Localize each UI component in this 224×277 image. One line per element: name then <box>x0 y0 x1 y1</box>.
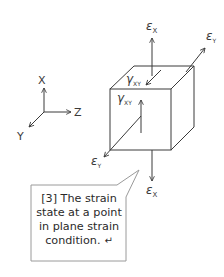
callout-line-3: in plane strain <box>32 220 126 234</box>
y-axis-label: Y <box>16 130 24 143</box>
coordinate-axes <box>29 88 71 127</box>
callout-line-4: condition.↵ <box>32 234 126 248</box>
callout-text: [3] The strain state at a point in plane… <box>32 192 126 248</box>
cube-right-face <box>171 66 194 150</box>
epsilon-x-bottom-label: εX <box>146 183 158 199</box>
callout-line-1: [3] The strain <box>32 192 126 206</box>
callout-line-4-text: condition. <box>45 234 100 247</box>
epsilon-x-top-label: εX <box>146 19 158 35</box>
y-axis-arrow <box>29 112 44 127</box>
gamma-xy-front-label: γXY <box>117 91 132 106</box>
return-icon: ↵ <box>104 235 112 246</box>
epsilon-y-bottom-label: εY <box>91 154 102 169</box>
z-axis-label: Z <box>74 106 82 119</box>
epsilon-y-top-arrow <box>186 48 205 72</box>
gamma-xy-top-arrow <box>146 70 161 85</box>
gamma-xy-top-label: γXY <box>126 72 141 87</box>
x-axis-label: X <box>38 74 46 87</box>
epsilon-y-top-label: εY <box>206 29 217 44</box>
callout-line-2: state at a point <box>32 206 126 220</box>
